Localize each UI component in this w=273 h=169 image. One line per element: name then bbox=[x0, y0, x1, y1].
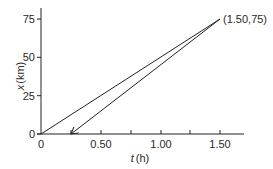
y-tick-75: 75 bbox=[23, 13, 35, 25]
chart: 75 50 25 0 0 0.50 1.00 1.50 t(h) x(km) (… bbox=[0, 0, 273, 169]
point-annotation: (1.50,75) bbox=[223, 13, 267, 25]
x-tick-0.50: 0.50 bbox=[90, 138, 111, 150]
series-line-from-origin bbox=[41, 19, 220, 134]
x-ticks bbox=[71, 130, 220, 134]
y-tick-0: 0 bbox=[29, 128, 35, 140]
y-tick-50: 50 bbox=[23, 51, 35, 63]
y-axis-title: x(km) bbox=[14, 62, 26, 92]
series-line-from-0.25 bbox=[71, 19, 220, 134]
y-tick-25: 25 bbox=[23, 90, 35, 102]
x-tick-1.50: 1.50 bbox=[209, 138, 230, 150]
x-tick-0: 0 bbox=[38, 138, 44, 150]
x-tick-1.00: 1.00 bbox=[150, 138, 171, 150]
y-ticks bbox=[37, 19, 41, 134]
x-axis-title: t(h) bbox=[131, 152, 150, 164]
